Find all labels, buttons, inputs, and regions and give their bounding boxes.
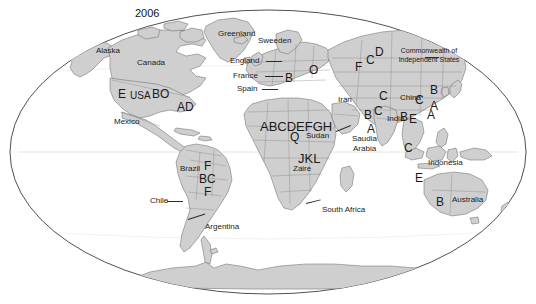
code-label-b-india: B bbox=[400, 111, 408, 123]
code-label-f-russia: F bbox=[355, 61, 362, 73]
code-label-e-usa: E bbox=[118, 88, 126, 100]
leader-line-england bbox=[266, 61, 282, 62]
code-label-c-centralasia: C bbox=[379, 90, 388, 102]
code-label-c-mideast: C bbox=[374, 105, 383, 117]
code-label-e-indonesia: E bbox=[415, 172, 423, 184]
code-label-e-india: E bbox=[409, 113, 417, 125]
code-label-b-eastasia: B bbox=[430, 84, 438, 96]
leader-line-chile bbox=[167, 201, 183, 202]
code-label-a-arabia: A bbox=[367, 123, 375, 135]
code-label-ad: AD bbox=[177, 101, 194, 113]
label-iran: Iran bbox=[338, 96, 352, 104]
label-saudia: Saudia bbox=[352, 135, 377, 143]
code-label-b-europe: B bbox=[285, 72, 293, 84]
label-brazil: Brazil bbox=[180, 165, 200, 173]
label-australia: Australia bbox=[452, 196, 483, 204]
code-label-d-russia: D bbox=[375, 46, 384, 58]
code-label-usa: USA bbox=[130, 91, 151, 101]
label-south-africa: South Africa bbox=[322, 206, 365, 214]
label-canada: Canada bbox=[137, 59, 165, 67]
code-label-jkl: JKL bbox=[298, 152, 320, 165]
world-map: 2006 Alaska Canada Greenland Sweeden Eng… bbox=[0, 0, 536, 304]
label-alaska: Alaska bbox=[96, 47, 120, 55]
code-label-a-asia: A bbox=[430, 100, 438, 112]
label-arabia: Arabia bbox=[353, 145, 376, 153]
label-zaire: Zaire bbox=[293, 165, 311, 173]
label-england: England bbox=[230, 57, 259, 65]
label-mexico: Mexico bbox=[114, 118, 139, 126]
label-greenland: Greenland bbox=[218, 30, 255, 38]
code-label-b-australia: B bbox=[436, 196, 444, 208]
label-indonesia: Indonesia bbox=[428, 159, 463, 167]
code-label-c-russia: C bbox=[366, 54, 375, 66]
code-label-c-seasia: C bbox=[404, 142, 413, 154]
label-argentina: Argentina bbox=[205, 223, 239, 231]
code-label-f-brazil-bottom: F bbox=[204, 186, 211, 198]
label-france: France bbox=[233, 72, 258, 80]
code-label-q-africa: Q bbox=[290, 131, 299, 143]
label-spain: Spain bbox=[237, 85, 257, 93]
code-label-bc-brazil: BC bbox=[199, 173, 216, 185]
code-label-b-mideast: B bbox=[364, 109, 372, 121]
code-label-bo: BO bbox=[152, 88, 169, 100]
leader-line-france bbox=[265, 76, 283, 77]
label-sweeden: Sweeden bbox=[258, 37, 291, 45]
label-chile: Chile bbox=[150, 197, 168, 205]
code-label-f-brazil-top: F bbox=[204, 160, 211, 172]
map-title: 2006 bbox=[135, 8, 159, 19]
code-label-c-asia: C bbox=[415, 94, 424, 106]
label-commonwealth-of-independent-states: Commonwealth of Independent States bbox=[388, 46, 470, 64]
code-label-o-europe: O bbox=[309, 64, 318, 76]
leader-line-spain bbox=[262, 89, 278, 90]
